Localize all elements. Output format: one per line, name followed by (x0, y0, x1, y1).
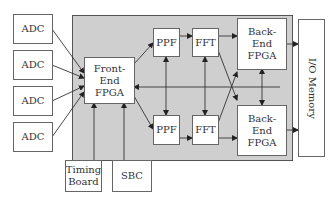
adc-label: ADC (22, 131, 45, 143)
adc-box-3: ADC (13, 86, 53, 116)
ppf-label: PPF (156, 124, 176, 136)
back-end-fpga-bottom-box: Back-EndFPGA (237, 105, 287, 156)
adc-label: ADC (22, 59, 45, 71)
ppf-bottom-box: PPF (153, 115, 180, 145)
timing-board-box: TimingBoard (65, 160, 102, 192)
adc-box-1: ADC (13, 14, 53, 44)
fft-top-box: FFT (192, 28, 219, 57)
ppf-label: PPF (156, 37, 176, 49)
adc-label: ADC (22, 23, 45, 35)
fft-label: FFT (195, 37, 216, 49)
back-end-label-1: Back-End (238, 26, 286, 50)
timing-label-2: Board (66, 176, 101, 188)
io-memory-box: I/O Memory (298, 19, 325, 157)
back-end-label-2: FPGA (238, 50, 286, 62)
front-end-label-2: FPGA (85, 87, 134, 99)
io-memory-label: I/O Memory (306, 58, 318, 119)
back-end-label-1: Back-End (238, 113, 286, 137)
adc-box-4: ADC (13, 122, 53, 152)
adc-box-2: ADC (13, 50, 53, 80)
sbc-label: SBC (121, 170, 143, 182)
front-end-label-1: Front-End (85, 63, 134, 87)
fft-label: FFT (195, 124, 216, 136)
sbc-box: SBC (112, 160, 152, 192)
adc-label: ADC (22, 95, 45, 107)
front-end-fpga-box: Front-EndFPGA (84, 57, 135, 104)
back-end-label-2: FPGA (238, 137, 286, 149)
back-end-fpga-top-box: Back-EndFPGA (237, 18, 287, 70)
timing-label-1: Timing (66, 164, 101, 176)
ppf-top-box: PPF (153, 28, 180, 57)
fft-bottom-box: FFT (192, 115, 219, 145)
